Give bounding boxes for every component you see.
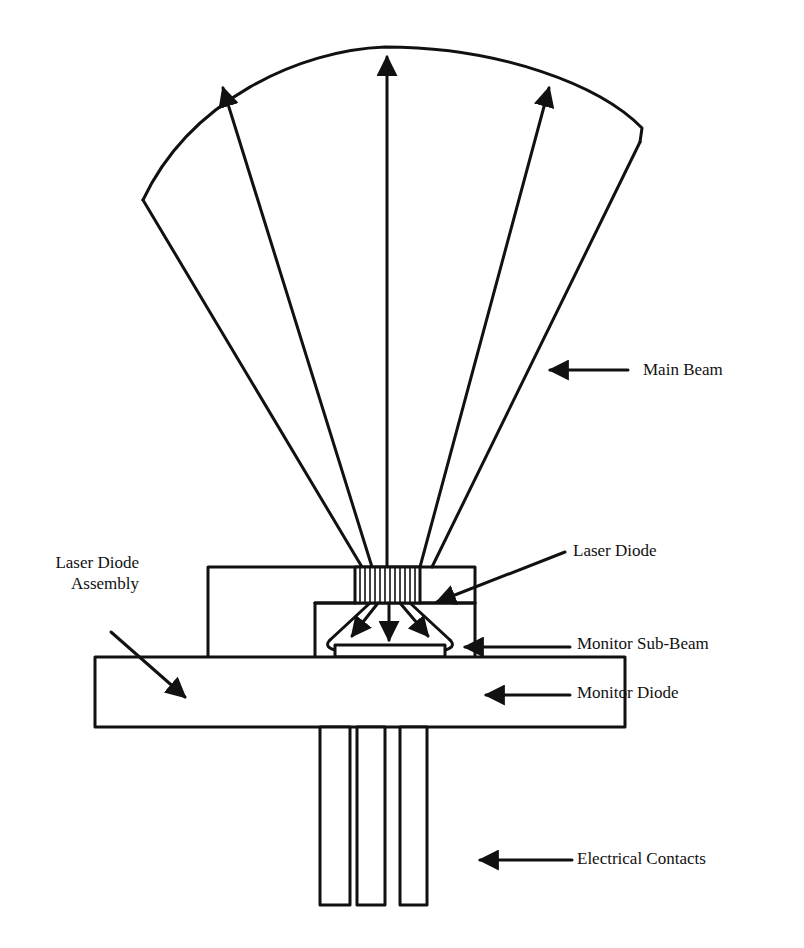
laser-diode-chip — [355, 567, 420, 603]
label-assembly-line2: Assembly — [22, 574, 139, 594]
label-monitor-diode: Monitor Diode — [577, 683, 679, 703]
main-beam-cone — [143, 47, 642, 567]
label-electrical-contacts: Electrical Contacts — [577, 849, 706, 869]
label-assembly-line1: Laser Diode — [22, 553, 139, 573]
header-base — [95, 657, 625, 727]
monitor-diode — [335, 645, 445, 657]
laser-diode-pointer — [437, 552, 565, 602]
label-monitor-sub-beam: Monitor Sub-Beam — [577, 634, 709, 654]
electrical-contacts — [320, 727, 427, 905]
main-beam-arrows — [223, 57, 549, 567]
label-main-beam: Main Beam — [643, 360, 723, 380]
label-laser-diode: Laser Diode — [573, 541, 657, 561]
laser-diode-diagram — [0, 0, 804, 948]
